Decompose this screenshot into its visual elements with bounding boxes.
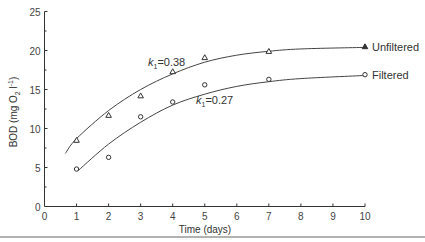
bod-chart: 0123456789100510152025Time (days)BOD (mg… bbox=[0, 0, 425, 242]
y-tick-label: 5 bbox=[35, 163, 41, 174]
axes: 0123456789100510152025Time (days)BOD (mg… bbox=[7, 7, 371, 236]
x-tick-label: 6 bbox=[234, 211, 240, 222]
circle-marker bbox=[363, 72, 367, 76]
fit-curves bbox=[65, 47, 365, 170]
x-tick-label: 5 bbox=[202, 211, 208, 222]
circle-marker bbox=[106, 155, 110, 159]
circle-marker bbox=[171, 100, 175, 104]
x-tick-label: 3 bbox=[138, 211, 144, 222]
y-tick-label: 0 bbox=[35, 202, 41, 213]
annotation-k-unfiltered: k1=0.38 bbox=[148, 56, 185, 70]
legend-unfiltered: Unfiltered bbox=[372, 41, 419, 53]
triangle-marker bbox=[138, 93, 144, 98]
legend-filtered: Filtered bbox=[372, 69, 409, 81]
data-points bbox=[74, 44, 368, 171]
x-tick-label: 1 bbox=[74, 211, 80, 222]
x-tick-label: 8 bbox=[298, 211, 304, 222]
triangle-marker bbox=[74, 137, 80, 142]
x-tick-label: 4 bbox=[170, 211, 176, 222]
triangle-marker bbox=[170, 69, 176, 74]
labels: UnfilteredFilteredk1=0.38k1=0.27 bbox=[148, 41, 419, 108]
y-tick-label: 10 bbox=[29, 124, 41, 135]
x-tick-label: 2 bbox=[106, 211, 112, 222]
x-axis-title: Time (days) bbox=[179, 224, 231, 235]
x-tick-label: 9 bbox=[330, 211, 336, 222]
y-axis-title: BOD (mg O2 l-1) bbox=[7, 77, 21, 148]
y-tick-label: 20 bbox=[29, 46, 41, 57]
triangle-marker bbox=[266, 48, 272, 53]
x-tick-label: 10 bbox=[359, 211, 371, 222]
triangle-marker bbox=[202, 55, 208, 60]
circle-marker bbox=[267, 77, 271, 81]
circle-marker bbox=[203, 83, 207, 87]
triangle-marker bbox=[106, 112, 112, 117]
y-tick-label: 25 bbox=[29, 7, 41, 18]
fit-curve-filtered bbox=[78, 75, 365, 170]
annotation-k-filtered: k1=0.27 bbox=[196, 94, 233, 108]
y-tick-label: 15 bbox=[29, 85, 41, 96]
circle-marker bbox=[74, 167, 78, 171]
triangle-marker bbox=[362, 44, 368, 49]
circle-marker bbox=[138, 115, 142, 119]
x-tick-label: 0 bbox=[42, 211, 48, 222]
x-tick-label: 7 bbox=[266, 211, 272, 222]
